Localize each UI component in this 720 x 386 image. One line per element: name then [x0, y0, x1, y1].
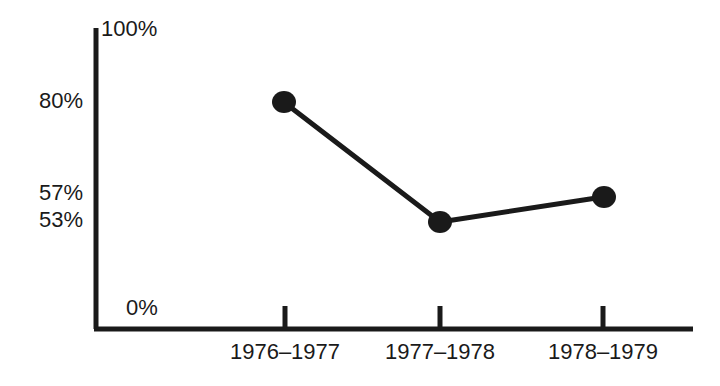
y-axis-label-0: 0%	[126, 297, 158, 319]
data-line-segment-2	[440, 197, 603, 222]
x-axis-label-1977-1978: 1977–1978	[357, 341, 523, 363]
data-point-1978-1979	[592, 186, 616, 208]
y-axis-label-53: 53%	[31, 209, 83, 231]
data-line-segment-1	[285, 103, 440, 222]
data-point-1977-1978	[428, 211, 452, 233]
data-point-1976-1977	[272, 91, 296, 113]
y-axis-label-57: 57%	[31, 182, 83, 204]
y-axis-label-100: 100%	[101, 18, 157, 40]
y-axis-label-80: 80%	[31, 90, 83, 112]
x-axis-label-1976-1977: 1976–1977	[202, 341, 368, 363]
chart-figure: 100% 80% 57% 53% 0% 1976–1977 1977–1978 …	[0, 0, 720, 386]
line-chart-plot	[0, 0, 720, 386]
x-axis-label-1978-1979: 1978–1979	[520, 341, 686, 363]
